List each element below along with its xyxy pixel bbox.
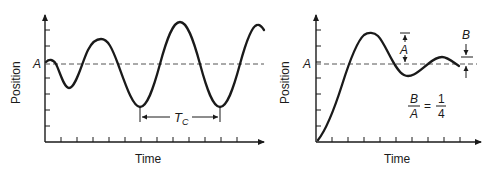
left-y-ticks xyxy=(45,30,50,126)
right-chart: A B B A = 1 4 A Position Time xyxy=(278,15,481,166)
period-label: TC xyxy=(174,110,189,127)
right-y-axis-label: Position xyxy=(278,61,292,104)
second-overshoot-label: B xyxy=(462,28,470,42)
overshoot-label: A xyxy=(399,43,408,57)
left-x-axis-label: Time xyxy=(135,152,162,166)
ratio-denominator-left: A xyxy=(409,107,418,121)
right-x-axis-label: Time xyxy=(384,152,411,166)
diagram-canvas: TC A Position Time xyxy=(0,0,485,176)
left-x-ticks xyxy=(61,137,237,142)
ratio-numerator-left: B xyxy=(410,92,418,106)
left-chart: TC A Position Time xyxy=(9,15,264,166)
second-overshoot-annotation: B xyxy=(461,28,473,78)
right-response-curve xyxy=(318,33,459,140)
right-reference-label: A xyxy=(302,57,311,71)
ratio-formula: B A = 1 4 xyxy=(408,92,446,121)
left-reference-label: A xyxy=(32,57,41,71)
ratio-denominator-right: 4 xyxy=(438,107,445,121)
overshoot-annotation: A xyxy=(399,33,410,62)
period-annotation: TC xyxy=(140,107,220,127)
right-x-ticks xyxy=(332,137,460,142)
left-y-axis-label: Position xyxy=(9,61,23,104)
ratio-equals: = xyxy=(424,99,431,113)
ratio-numerator-right: 1 xyxy=(438,92,445,106)
right-y-ticks xyxy=(316,30,321,126)
